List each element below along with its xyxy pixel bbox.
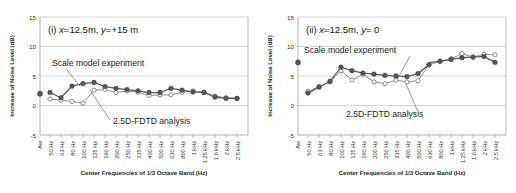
x-tick-630hz: 630 Hz bbox=[169, 141, 175, 159]
data-point-exp bbox=[394, 74, 399, 79]
data-point-exp bbox=[449, 57, 454, 62]
x-tick-1khz: 1 kHz bbox=[191, 141, 197, 156]
data-point-exp bbox=[59, 95, 64, 100]
x-tick-2khz: 2 kHz bbox=[224, 141, 230, 156]
x-tick-315hz: 315 Hz bbox=[394, 141, 400, 159]
x-axis-title-i: Center Frequencies of 1/3 Octave Band (H… bbox=[81, 169, 208, 176]
x-tick-630hz: 630 Hz bbox=[427, 141, 433, 159]
data-point-fdtd bbox=[383, 82, 387, 86]
data-point-exp bbox=[317, 85, 322, 90]
y-tick-15: 15 bbox=[29, 14, 36, 21]
y-tick-5: 5 bbox=[33, 73, 37, 80]
data-point-exp bbox=[92, 80, 97, 85]
data-point-exp bbox=[202, 90, 207, 95]
x-tick-315hz: 315 Hz bbox=[136, 141, 142, 159]
x-tick-1p6khz: 1.6 kHz bbox=[213, 141, 219, 160]
x-tick-200hz: 200 Hz bbox=[114, 141, 120, 159]
chart-svg-ii: 15 10 5 0 -5 Increase of Noise Level (dB… bbox=[258, 0, 516, 193]
data-point-fdtd bbox=[372, 80, 376, 84]
data-point-exp bbox=[405, 74, 410, 79]
x-tick-80hz: 80 Hz bbox=[70, 141, 76, 156]
data-point-exp bbox=[158, 90, 163, 95]
data-point-exp bbox=[70, 84, 75, 89]
x-tick-labels-ii: Aw 50 Hz 63 Hz 80 Hz 100 Hz 125 Hz 160 H… bbox=[295, 140, 499, 163]
data-point-exp bbox=[350, 68, 355, 73]
data-point-exp bbox=[147, 90, 152, 95]
y-tick-neg5: -5 bbox=[288, 132, 294, 139]
data-point-fdtd bbox=[493, 53, 497, 57]
x-tick-400hz: 400 Hz bbox=[147, 141, 153, 159]
data-point-overall-exp bbox=[37, 91, 42, 96]
x-tick-160hz: 160 Hz bbox=[361, 141, 367, 159]
data-point-fdtd bbox=[169, 93, 173, 97]
data-point-exp bbox=[460, 55, 465, 60]
data-point-fdtd bbox=[114, 90, 118, 94]
annotation-fdtd-ii: 2.5D-FDTD analysis bbox=[346, 109, 423, 119]
y-tick-neg5: -5 bbox=[30, 132, 36, 139]
data-point-exp bbox=[191, 90, 196, 95]
data-point-exp bbox=[482, 54, 487, 59]
data-point-exp bbox=[169, 86, 174, 91]
data-point-overall-exp bbox=[295, 60, 300, 65]
x-tick-80hz: 80 Hz bbox=[328, 141, 334, 156]
x-tick-2p5khz: 2.5 kHz bbox=[493, 141, 499, 160]
data-point-exp bbox=[180, 88, 185, 93]
data-point-exp bbox=[48, 90, 53, 95]
y-axis-title-i: Increase of Noise Level (dB) bbox=[8, 35, 15, 117]
x-tick-100hz: 100 Hz bbox=[339, 141, 345, 159]
y-tick-15: 15 bbox=[287, 14, 294, 21]
data-point-fdtd bbox=[416, 79, 420, 83]
data-point-fdtd bbox=[460, 52, 464, 56]
x-tick-1p6khz: 1.6 kHz bbox=[471, 141, 477, 160]
x-tick-labels-i: Aw 50 Hz 63 Hz 80 Hz 100 Hz 125 Hz 160 H… bbox=[37, 140, 241, 163]
x-tick-aw: Aw bbox=[295, 140, 301, 149]
x-tick-marks-ii bbox=[308, 135, 495, 138]
data-point-exp bbox=[306, 91, 311, 96]
x-tick-63hz: 63 Hz bbox=[59, 141, 65, 156]
chart-panel-ii: 15 10 5 0 -5 Increase of Noise Level (dB… bbox=[258, 0, 516, 193]
data-point-exp bbox=[427, 62, 432, 67]
data-point-exp bbox=[471, 55, 476, 60]
data-point-exp bbox=[372, 72, 377, 77]
x-tick-250hz: 250 Hz bbox=[125, 141, 131, 159]
figure-container: 15 10 5 0 -5 Increase of Noise Level (dB… bbox=[0, 0, 516, 193]
y-tick-labels-i: 15 10 5 0 -5 bbox=[29, 14, 36, 139]
data-point-exp bbox=[103, 84, 108, 89]
data-point-exp bbox=[328, 79, 333, 84]
data-point-exp bbox=[224, 96, 229, 101]
data-point-exp bbox=[416, 71, 421, 76]
data-point-fdtd bbox=[81, 101, 85, 105]
x-tick-250hz: 250 Hz bbox=[383, 141, 389, 159]
x-tick-1p25khz: 1.25 kHz bbox=[202, 141, 208, 163]
data-point-fdtd bbox=[405, 80, 409, 84]
panel-title-i: (i) x=12.5m, y=+15 m bbox=[48, 24, 138, 35]
x-tick-1p25khz: 1.25 kHz bbox=[460, 141, 466, 163]
data-point-exp bbox=[383, 73, 388, 78]
x-tick-1khz: 1 kHz bbox=[449, 141, 455, 156]
annotation-scale-model-ii: Scale model experiment bbox=[304, 45, 397, 55]
y-tick-0: 0 bbox=[33, 102, 37, 109]
x-tick-125hz: 125 Hz bbox=[350, 141, 356, 159]
data-point-fdtd bbox=[48, 97, 52, 101]
data-point-fdtd bbox=[350, 78, 354, 82]
x-tick-50hz: 50 Hz bbox=[48, 141, 54, 156]
y-axis-title-ii: Increase of Noise Level (dB) bbox=[266, 35, 273, 117]
data-point-exp bbox=[125, 87, 130, 92]
x-tick-800hz: 800 Hz bbox=[438, 141, 444, 159]
x-tick-500hz: 500 Hz bbox=[158, 141, 164, 159]
data-point-exp bbox=[235, 96, 240, 101]
y-tick-labels-ii: 15 10 5 0 -5 bbox=[287, 14, 294, 139]
data-point-exp bbox=[361, 71, 366, 76]
x-tick-2p5khz: 2.5 kHz bbox=[235, 141, 241, 160]
y-tick-0: 0 bbox=[291, 102, 295, 109]
annotation-scale-model-i: Scale model experiment bbox=[52, 58, 145, 68]
y-tick-5: 5 bbox=[291, 73, 295, 80]
x-tick-2khz: 2 kHz bbox=[482, 141, 488, 156]
data-point-exp bbox=[213, 95, 218, 100]
x-axis-title-ii: Center Frequencies of 1/3 Octave Band (H… bbox=[339, 169, 466, 176]
data-point-exp bbox=[81, 81, 86, 86]
data-point-exp bbox=[339, 65, 344, 70]
data-point-exp bbox=[438, 59, 443, 64]
x-tick-400hz: 400 Hz bbox=[405, 141, 411, 159]
x-tick-aw: Aw bbox=[37, 140, 43, 149]
